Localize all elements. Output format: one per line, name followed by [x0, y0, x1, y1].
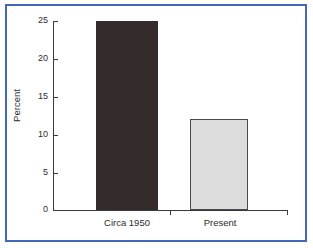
bar-present — [190, 119, 248, 210]
y-axis-title: Percent — [11, 76, 22, 136]
x-label-circa-1950: Circa 1950 — [87, 217, 167, 228]
y-tick-0 — [54, 210, 58, 211]
bars-layer — [0, 0, 313, 210]
x-tick-end — [287, 211, 288, 215]
bar-circa-1950 — [96, 21, 158, 210]
x-tick-mid — [170, 211, 171, 215]
x-label-present: Present — [184, 217, 256, 228]
chart-screenshot: 25 20 15 10 5 0 Circa 1950 — [0, 0, 313, 248]
plot-area: 25 20 15 10 5 0 Circa 1950 — [0, 0, 313, 248]
